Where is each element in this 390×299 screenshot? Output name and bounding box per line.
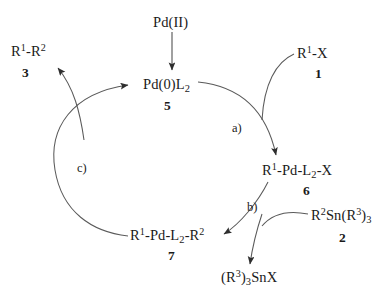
transmet-post: -R	[185, 227, 200, 243]
arrow-step-a-cycle	[198, 82, 276, 155]
number-organohalide: 1	[315, 67, 322, 81]
number-transmetalation-adduct: 7	[168, 249, 175, 263]
step-label-b: b)	[247, 201, 257, 214]
active-catalyst-sub: 2	[185, 83, 190, 94]
arrow-step-c-cycle	[54, 85, 128, 236]
tin-halide-post: SnX	[251, 269, 277, 285]
catalytic-cycle-diagram: Pd(II) Pd(0)L2 5 R1-X 1 R1-R2 3 R1-Pd-L2…	[0, 0, 390, 299]
organostannane-mid: Sn(R	[326, 207, 356, 223]
transmet-pre: R	[130, 227, 140, 243]
species-precatalyst: Pd(II)	[153, 15, 188, 30]
organohalide-pre: R	[297, 45, 307, 61]
species-oxidative-adduct: R1-Pd-L2-X	[262, 162, 332, 180]
oxidative-adduct-post: -X	[317, 162, 333, 178]
species-coupled-product: R1-R2	[11, 43, 46, 58]
active-catalyst-pre: Pd(0)L	[143, 76, 185, 92]
arrow-layer	[0, 0, 390, 299]
transmet-sup2: 2	[199, 226, 205, 237]
arrow-substrate-entry	[262, 54, 294, 120]
organohalide-post: -X	[312, 45, 328, 61]
coupled-product-sup2: 2	[41, 42, 47, 53]
arrow-stannane-entry	[262, 213, 308, 227]
species-tin-halide: (R3)3SnX	[221, 269, 277, 287]
transmet-mid: -Pd-L	[145, 227, 179, 243]
number-coupled-product: 3	[22, 66, 29, 80]
number-active-catalyst: 5	[164, 99, 171, 113]
number-organostannane: 2	[339, 231, 346, 245]
organostannane-pre: R	[311, 207, 321, 223]
arrow-step-b-cycle	[224, 182, 268, 234]
coupled-product-mid: -R	[26, 43, 41, 59]
organostannane-sub: 3	[366, 214, 371, 225]
species-transmetalation-adduct: R1-Pd-L2-R2	[130, 227, 205, 245]
arrow-product-release	[58, 68, 84, 140]
oxidative-adduct-pre: R	[262, 162, 272, 178]
coupled-product-pre: R	[11, 43, 21, 59]
arrow-tinhalide-exit	[250, 214, 262, 264]
species-organostannane: R2Sn(R3)3	[311, 207, 372, 225]
step-label-a: a)	[232, 122, 242, 135]
step-label-c: c)	[77, 162, 87, 175]
oxidative-adduct-mid: -Pd-L	[277, 162, 311, 178]
species-active-catalyst: Pd(0)L2	[143, 77, 190, 94]
number-oxidative-adduct: 6	[303, 184, 310, 198]
species-organohalide: R1-X	[297, 45, 327, 60]
tin-halide-pre: (R	[221, 269, 236, 285]
